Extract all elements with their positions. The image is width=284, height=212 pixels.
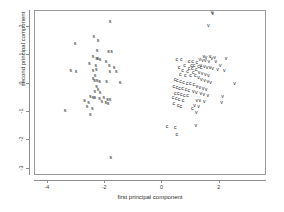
data-point-v: v [206,93,209,98]
y-axis-label: second principal component [20,0,26,112]
x-axis-label: first principal component [34,194,266,200]
data-point-s: s [98,80,101,85]
data-point-s: s [70,68,73,73]
y-tick-mark [26,83,29,84]
data-point-c: c [166,124,169,129]
data-point-v: v [220,101,223,106]
x-tick-label: 0 [160,184,163,190]
plot-frame: ssssssssssssssssssssssssssssssssssssssss… [34,10,266,175]
y-axis-line [29,10,30,175]
data-point-c: c [178,66,181,71]
data-point-v: v [225,56,228,61]
data-point-v: v [216,67,219,72]
data-point-s: s [100,99,103,104]
data-point-v: v [223,68,226,73]
y-tick-mark [26,139,29,140]
y-tick-mark [26,168,29,169]
y-tick-mark [26,54,29,55]
data-point-c: c [189,73,192,78]
data-point-c: c [179,72,182,77]
data-point-s: s [89,112,92,117]
y-tick-label: -3 [18,165,24,170]
data-point-v: v [194,123,197,128]
data-point-s: s [105,80,108,85]
data-point-v: v [195,110,198,115]
x-tick-mark [161,180,162,183]
data-point-c: c [179,104,182,109]
x-tick-label: 2 [217,184,220,190]
data-point-c: c [186,94,189,99]
data-point-s: s [115,70,118,75]
data-point-s: s [97,39,100,44]
pca-scatter-figure: ssssssssssssssssssssssssssssssssssssssss… [0,0,284,212]
data-point-s: s [99,57,102,62]
data-point-v: v [200,64,203,69]
data-point-v: v [195,91,198,96]
data-point-s: s [110,155,113,160]
x-tick-mark [219,180,220,183]
data-point-c: c [175,57,178,62]
data-point-v: v [233,81,236,86]
data-point-s: s [94,96,97,101]
data-point-s: s [96,49,99,54]
data-point-s: s [75,69,78,74]
y-tick-mark [26,111,29,112]
data-point-v: v [202,92,205,97]
data-point-s: s [108,69,111,74]
data-point-s: s [109,19,112,24]
data-point-v: v [211,67,214,72]
x-tick-mark [47,180,48,183]
data-point-s: s [64,108,67,113]
data-point-c: c [175,132,178,137]
x-tick-label: -4 [44,184,49,190]
data-point-s: s [92,35,95,40]
scatter-data-layer: ssssssssssssssssssssssssssssssssssssssss… [35,11,265,174]
data-point-v: v [209,80,212,85]
data-point-c: c [173,101,176,106]
data-point-s: s [119,81,122,86]
data-point-c: c [184,73,187,78]
data-point-v: v [203,100,206,105]
data-point-s: s [110,49,113,54]
x-axis-line [34,180,266,181]
data-point-s: s [74,41,77,46]
data-point-s: s [86,104,89,109]
y-tick-label: -2 [18,137,24,142]
data-point-s: s [88,61,91,66]
y-tick-mark [26,26,29,27]
x-tick-label: -2 [102,184,107,190]
data-point-v: v [219,63,222,68]
data-point-s: s [92,55,95,60]
data-point-c: c [182,80,185,85]
x-tick-mark [104,180,105,183]
data-point-v: v [214,60,217,65]
data-point-v: v [207,23,210,28]
data-point-v: v [212,11,215,16]
data-point-s: s [107,102,110,107]
